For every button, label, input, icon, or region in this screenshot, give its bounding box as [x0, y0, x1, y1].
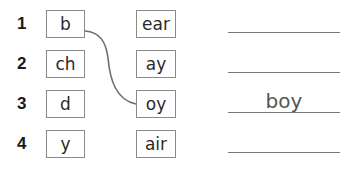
onset-box-b[interactable]: b	[46, 10, 85, 38]
rime-box-ay[interactable]: ay	[136, 50, 176, 78]
rime-box-air[interactable]: air	[136, 130, 176, 158]
matching-row-4: 4 y air	[0, 130, 360, 160]
row-number: 2	[17, 54, 33, 74]
answer-line[interactable]	[228, 72, 340, 73]
matching-row-3: 3 d oy boy	[0, 90, 360, 120]
matching-row-1: 1 b ear	[0, 10, 360, 40]
row-number: 1	[17, 14, 33, 34]
row-number: 3	[17, 94, 33, 114]
answer-line[interactable]	[228, 32, 340, 33]
onset-box-ch[interactable]: ch	[46, 50, 85, 78]
matching-row-2: 2 ch ay	[0, 50, 360, 80]
onset-box-y[interactable]: y	[46, 130, 85, 158]
answer-text: boy	[228, 89, 340, 113]
onset-box-d[interactable]: d	[46, 90, 85, 118]
answer-line[interactable]	[228, 152, 340, 153]
rime-box-oy[interactable]: oy	[136, 90, 176, 118]
row-number: 4	[17, 134, 33, 154]
rime-box-ear[interactable]: ear	[136, 10, 176, 38]
